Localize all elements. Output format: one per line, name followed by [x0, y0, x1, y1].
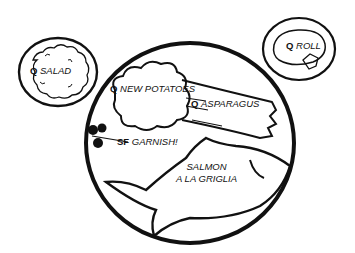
garnish-leaves — [88, 124, 107, 149]
label-roll: Q ROLL — [286, 41, 321, 51]
label-potatoes: Q NEW POTATOES — [110, 84, 195, 94]
plate-drawing — [0, 0, 355, 253]
label-garnish: SF GARNISH! — [117, 137, 178, 147]
label-salad: Q SALAD — [30, 66, 71, 76]
label-salmon: SALMON A LA GRIGLIA — [176, 161, 237, 185]
salmon-line-2: A LA GRIGLIA — [176, 173, 237, 185]
salmon-line-1: SALMON — [176, 161, 237, 173]
label-asparagus: Q ASPARAGUS — [191, 99, 259, 109]
